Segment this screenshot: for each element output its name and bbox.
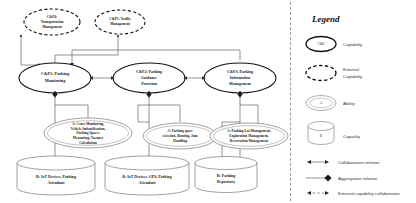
ab1-line3: Parking Spaces (76, 131, 100, 135)
cp1-label-line2: Monitoring (45, 78, 66, 83)
legend-item-aggregation-relation: Aggregation relation (306, 175, 378, 182)
legend-title: Legend (311, 14, 340, 24)
legend-label-external-capability-line1: External (343, 67, 359, 72)
external-capability-node-cp5[interactable]: C&P5: Traffic Management (95, 10, 145, 34)
capability-node-cp1[interactable]: C&P1: Parking Monitoring (19, 63, 91, 93)
ab3-line3: Reservation Management (230, 139, 269, 143)
legend-label-aggregation-relation: Aggregation relation (338, 176, 378, 181)
capability-node-cp3[interactable]: C&P3: Parking Information Management (204, 63, 276, 93)
ab1-line1: A: Cross Monitoring, (72, 122, 104, 126)
legend-label-collaboration-relation: Collaboration relation (338, 160, 380, 165)
legend-label-ability: Ability (343, 101, 356, 106)
external-capability-icon (306, 66, 336, 81)
ab2-line2: selection, Routing, Jam (163, 134, 198, 138)
resource-node-res3[interactable]: R: Parking Repository (195, 157, 257, 193)
res3-line2: Repository (217, 180, 235, 184)
capability-node-cp2[interactable]: C&P2: Parking Guidance Provision (113, 63, 185, 93)
cp2-label-line3: Provision (141, 82, 158, 86)
cp4-label-line1: C&P4: (47, 15, 58, 19)
ab2-line3: Handling (173, 139, 187, 143)
cp3-label-line2: Information (230, 76, 251, 80)
ab1-line2: Vehicle Indentification, (71, 127, 106, 131)
ability-node-ab3[interactable]: A: Parking Lot Management, Exploration M… (210, 123, 288, 149)
diagram-page: C&P1: Parking Monitoring C&P2: Parking G… (0, 0, 416, 203)
legend-label-resource: Capaility (343, 134, 361, 139)
res3-line1: R: Parking (217, 174, 236, 178)
connector-cp1-cp2 (89, 76, 114, 80)
legend-divider (290, 2, 291, 201)
cp1-label-line1: C&P1: Parking (41, 71, 70, 76)
connector-cp2-cp3 (183, 76, 205, 80)
capability-icon-glyph: C&P (318, 42, 325, 46)
ability-node-ab2[interactable]: A: Parking space selection, Routing, Jam… (143, 123, 217, 149)
legend-item-external-capability-collaboration: External capability collaboration (307, 191, 400, 196)
external-capability-node-cp4[interactable]: C&P4: Transportation Management (24, 9, 80, 35)
resource-icon-top (308, 122, 334, 131)
cp5-label-line2: Management (110, 22, 130, 26)
legend-item-external-capability: External Capability (306, 66, 363, 81)
legend-label-external-capability-collaboration: External capability collaboration (338, 191, 400, 196)
resource-node-res2[interactable]: R: IoT Devices, GPS, Parking Attendant (105, 156, 189, 195)
ab1-line5: Calculation (79, 141, 96, 145)
cp3-label-line3: Management (229, 82, 252, 86)
ab1-line4: Measuring, Vacancy (73, 136, 104, 140)
res1-line1: R: IoT Devices, Parking (36, 175, 76, 179)
cp4-label-line2: Transportation (41, 20, 64, 24)
legend-item-ability: A Ability (306, 96, 356, 111)
cp4-label-line3: Management (42, 25, 62, 29)
legend-item-capability: C&P Capability (306, 37, 363, 52)
res2-line1: R: IoT Devices, GPS, Parking (122, 175, 171, 179)
resource-node-res1[interactable]: R: IoT Devices, Parking Attendant (17, 156, 95, 195)
ab3-line2: Exploration Management, (229, 134, 268, 138)
legend-panel: Legend C&P Capability External Capabilit… (290, 0, 416, 203)
ability-node-ab1[interactable]: A: Cross Monitoring, Vehicle Indentifica… (44, 118, 132, 148)
legend-label-external-capability-line2: Capability (343, 74, 363, 79)
cp5-label-line1: C&P5: Traffic (109, 17, 131, 21)
connector-group-external (20, 35, 119, 67)
cp2-label-line1: C&P2: Parking (136, 70, 162, 74)
res1-line2: Attendant (48, 181, 66, 185)
ab3-line1: A: Parking Lot Management, (227, 129, 271, 133)
legend-label-capability: Capability (343, 42, 363, 47)
legend-item-resource: R Capaility (308, 122, 361, 145)
capability-diagram: C&P1: Parking Monitoring C&P2: Parking G… (0, 0, 290, 203)
cp3-label-line1: C&P3: Parking (227, 70, 253, 74)
res2-line2: Attendant (139, 181, 157, 185)
cp2-label-line2: Guidance (141, 76, 157, 80)
ab2-line1: A: Parking space (167, 129, 193, 133)
legend-item-collaboration-relation: Collaboration relation (307, 160, 380, 165)
